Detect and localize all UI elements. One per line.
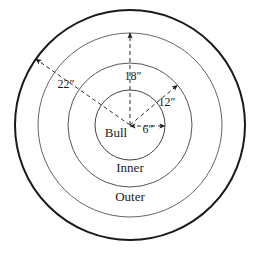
region-label-bull: Bull [105, 125, 128, 140]
concentric-target-svg: 6″ 12″ 18″ 22″ Bull Inner Outer [0, 0, 253, 258]
target-diagram: 6″ 12″ 18″ 22″ Bull Inner Outer [0, 0, 253, 258]
region-label-inner: Inner [116, 160, 144, 175]
region-label-outer: Outer [115, 189, 145, 204]
region-labels-group: Bull Inner Outer [105, 125, 146, 204]
dimension-line-22 [36, 59, 130, 125]
dimension-label-6: 6″ [143, 122, 154, 136]
dimension-label-12: 12″ [159, 95, 176, 109]
dimension-label-18: 18″ [125, 69, 142, 83]
dimension-label-22: 22″ [58, 77, 75, 91]
